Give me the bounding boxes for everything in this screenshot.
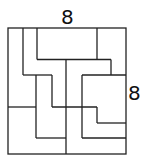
right-dimension-label: 8 [128,81,141,105]
outer-square [8,28,126,154]
piece-boundaries [8,28,126,154]
top-dimension-label: 8 [61,5,74,29]
puzzle-diagram: 8 8 [0,0,143,160]
